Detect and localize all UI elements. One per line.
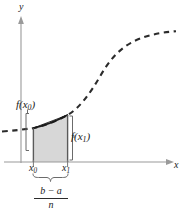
fx1-label-main: f(x xyxy=(71,130,83,142)
fx0-label: f(x0) xyxy=(16,99,35,112)
x-axis-arrow-icon xyxy=(166,159,174,165)
fraction-denominator: n xyxy=(32,199,70,211)
figure-container: y x f(x0) f(x1) x0 x1 b − a n xyxy=(0,0,185,214)
fraction-numerator: b − a xyxy=(32,186,70,198)
x-axis-label: x xyxy=(174,160,178,170)
fx0-label-main: f(x xyxy=(16,98,28,110)
function-curve-dashed xyxy=(2,31,176,131)
x0-label-subscript: 0 xyxy=(33,167,37,175)
fx0-label-close: ) xyxy=(32,98,36,110)
x0-axis-label: x0 xyxy=(29,163,37,175)
y-axis-label: y xyxy=(19,2,23,12)
x1-label-subscript: 1 xyxy=(66,167,70,175)
fx0-height-bracket-icon xyxy=(26,114,29,151)
shaded-area-region xyxy=(33,115,68,162)
y-axis-arrow-icon xyxy=(18,16,24,24)
subinterval-width-fraction: b − a n xyxy=(32,186,70,210)
fx1-label: f(x1) xyxy=(71,131,90,144)
x1-axis-label: x1 xyxy=(62,163,70,175)
fx1-label-close: ) xyxy=(87,130,91,142)
